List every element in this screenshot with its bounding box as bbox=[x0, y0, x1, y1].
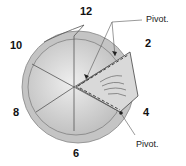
label-12: 12 bbox=[80, 6, 92, 17]
label-8: 8 bbox=[13, 107, 19, 118]
label-6: 6 bbox=[73, 148, 79, 159]
label-4: 4 bbox=[143, 107, 149, 118]
label-10: 10 bbox=[10, 40, 22, 51]
pivot-label-bottom: Pivot. bbox=[136, 140, 159, 149]
label-2: 2 bbox=[145, 38, 151, 49]
pivot-label-top: Pivot. bbox=[146, 15, 169, 24]
